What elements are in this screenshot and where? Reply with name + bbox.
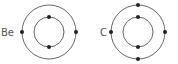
atom-label-be: Be — [1, 27, 14, 38]
electron — [136, 3, 140, 7]
inner-shell — [123, 17, 153, 47]
inner-shell — [34, 17, 64, 47]
electron — [163, 30, 167, 34]
electron — [47, 15, 51, 19]
atom-beryllium: Be — [1, 5, 78, 59]
outer-shell — [22, 5, 76, 59]
atom-label-c: C — [100, 27, 107, 38]
outer-shell — [111, 5, 165, 59]
electron — [136, 57, 140, 61]
electron-shell-diagram: Be C — [0, 0, 178, 64]
electron — [47, 45, 51, 49]
atom-carbon: C — [100, 3, 167, 61]
electron — [20, 30, 24, 34]
electron — [136, 45, 140, 49]
electron — [109, 30, 113, 34]
electron — [136, 15, 140, 19]
electron — [74, 30, 78, 34]
